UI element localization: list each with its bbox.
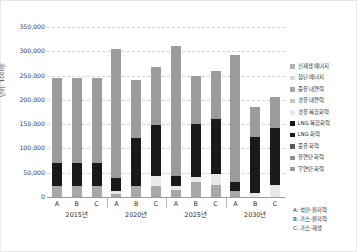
x-axis-tick-label: B [246,200,264,208]
bar-segment [270,128,280,185]
group-separator [107,198,108,208]
bar-stack [72,78,82,197]
bar-stack [230,55,240,197]
bar-stack [131,80,141,197]
scenario-notes: A: 석탄-원자력B: 가스-원자력C: 가스-재생 [293,206,357,234]
legend-swatch-icon [290,110,295,115]
legend-item[interactable]: 경유 복합화력 [290,107,356,118]
legend-swatch-icon [290,64,295,69]
bar-segment [52,163,62,186]
x-axis-tick-label: C [147,200,165,208]
y-axis-tick-label: 250,000 [1,72,45,78]
bar-segment [131,186,141,197]
x-axis-tick-label: A [167,200,185,208]
bar-segment [270,97,280,127]
bar-segment [111,178,121,191]
bar-segment [92,163,102,186]
bar-segment [250,193,260,197]
bar-segment [230,55,240,182]
bar-segment [191,124,201,176]
bar-stack [111,49,121,197]
legend-swatch-icon [290,167,295,172]
bar-segment [111,49,121,178]
bar-segment [92,78,102,163]
y-axis-tick-label: 350,000 [1,24,45,30]
chart-legend: 신재생 에너지첨단 에너지중유 내연력경유 내연력경유 복합화력LNG 복합화력… [290,61,356,175]
bar-segment [171,46,181,176]
bar-segment [171,190,181,197]
y-axis-tick-label: 200,000 [1,97,45,103]
legend-item-label: 중유 화력 [298,144,320,149]
legend-item-label: 경유 복합화력 [298,110,330,115]
bar-segment [151,186,161,197]
legend-item[interactable]: 경유 내연력 [290,95,356,106]
bar-stack [151,67,161,197]
legend-item[interactable]: 첨단 에너지 [290,72,356,83]
bar-segment [250,107,260,137]
bar-segment [52,186,62,197]
bar-segment [191,182,201,197]
x-axis-tick-label: B [68,200,86,208]
legend-item-label: 첨단 에너지 [298,75,325,80]
x-axis-group-label: 2030년 [229,210,281,219]
bar-stack [191,76,201,197]
legend-swatch-icon [290,76,295,81]
bar-segment [171,176,181,187]
legend-item[interactable]: LNG 화력 [290,129,356,140]
legend-item[interactable]: 신재생 에너지 [290,61,356,72]
y-axis-tick-label: 100,000 [1,145,45,151]
x-axis-group-label: 2015년 [51,210,103,219]
x-axis-tick-label: A [107,200,125,208]
bar-segment [131,80,141,137]
bar-segment [131,138,141,187]
legend-swatch-icon [290,144,295,149]
bar-segment [151,125,161,176]
legend-item-label: LNG 화력 [298,132,321,137]
scenario-note: C: 가스-재생 [293,224,357,233]
bar-segment [230,191,240,197]
legend-item[interactable]: 무연탄 화력 [290,164,356,175]
bar-stack [92,78,102,197]
x-axis-group-label: 2020년 [110,210,162,219]
bar-stack [250,107,260,197]
y-axis-tick-labels: 050,000100,000150,000200,000250,000300,0… [1,1,45,252]
x-axis-tick-label: C [207,200,225,208]
x-axis-tick-label: C [266,200,284,208]
bar-segment [72,78,82,163]
bar-segment [211,185,221,197]
legend-item-label: 신재생 에너지 [298,64,330,69]
x-axis-tick-label: A [226,200,244,208]
y-axis-tick-label: 150,000 [1,121,45,127]
bar-segment [92,186,102,197]
scenario-note: A: 석탄-원자력 [293,206,357,215]
bar-stack [270,97,280,197]
bar-segment [52,78,62,163]
bar-stack [171,46,181,198]
x-axis-tick-label: C [88,200,106,208]
group-separator [226,198,227,208]
legend-item[interactable]: 중유 화력 [290,141,356,152]
bar-segment [211,174,221,186]
legend-item[interactable]: 중유 내연력 [290,84,356,95]
legend-item-label: 중유 내연력 [298,87,325,92]
chart-figure: 050,000100,000150,000200,000250,000300,0… [0,0,357,252]
bar-segment [111,194,121,197]
legend-item-label: LNG 복합화력 [298,121,331,126]
y-axis-title: 단위: 1000톤 [0,62,6,97]
legend-swatch-icon [290,156,295,161]
bar-segment [211,71,221,120]
x-axis-tick-label: B [187,200,205,208]
x-axis-group-label: 2025년 [170,210,222,219]
bar-segment [250,137,260,193]
legend-item-label: 유연탄 화력 [298,155,325,160]
bar-segment [72,186,82,197]
legend-swatch-icon [290,99,295,104]
legend-item[interactable]: 유연탄 화력 [290,152,356,163]
legend-item[interactable]: LNG 복합화력 [290,118,356,129]
x-axis-labels: ABCABCABCABC2015년2020년2025년2030년 [47,198,285,228]
x-axis-tick-label: B [127,200,145,208]
y-axis-tick-label: 300,000 [1,48,45,54]
scenario-note: B: 가스-원자력 [293,215,357,224]
legend-swatch-icon [290,121,295,126]
bar-segment [270,185,280,197]
